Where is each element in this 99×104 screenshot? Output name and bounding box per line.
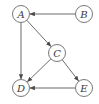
node-b: B [76, 6, 93, 23]
node-label: E [79, 83, 88, 94]
edge-c-to-d [27, 59, 50, 82]
nodes-layer: ABCDE [13, 6, 93, 97]
node-e: E [76, 80, 93, 97]
node-label: C [53, 48, 61, 59]
node-c: C [49, 45, 66, 62]
node-label: A [16, 9, 24, 20]
node-label: B [79, 9, 87, 20]
graph-canvas: ABCDE [0, 0, 99, 104]
node-label: D [16, 83, 25, 94]
edge-c-to-e [62, 60, 78, 81]
edge-a-to-c [27, 20, 51, 46]
node-d: D [13, 80, 30, 97]
node-a: A [13, 6, 30, 23]
